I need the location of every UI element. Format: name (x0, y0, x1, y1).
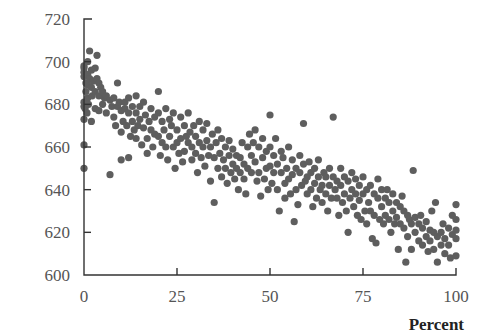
data-point (438, 229, 445, 236)
data-point (240, 175, 247, 182)
data-point (129, 103, 136, 110)
data-point (133, 109, 140, 116)
data-point (125, 154, 132, 161)
data-point (419, 225, 426, 232)
data-point (337, 182, 344, 189)
data-point (270, 152, 277, 159)
x-tick-label: 25 (169, 287, 186, 306)
x-axis-title: Percent (409, 315, 465, 334)
data-point (216, 150, 223, 157)
data-point (372, 239, 379, 246)
data-point (235, 186, 242, 193)
data-point (352, 190, 359, 197)
data-point (125, 109, 132, 116)
data-point (428, 207, 435, 214)
data-point (426, 237, 433, 244)
data-point (350, 203, 357, 210)
data-point (285, 143, 292, 150)
data-point (255, 169, 262, 176)
data-point (337, 165, 344, 172)
data-point (166, 133, 173, 140)
data-point (155, 88, 162, 95)
x-tick-label: 100 (443, 287, 469, 306)
data-point (188, 156, 195, 163)
data-point (106, 171, 113, 178)
data-point (160, 126, 167, 133)
data-point (365, 199, 372, 206)
data-point (86, 47, 93, 54)
data-point (142, 111, 149, 118)
data-point (252, 158, 259, 165)
data-point (231, 175, 238, 182)
data-point (138, 141, 145, 148)
data-point (306, 158, 313, 165)
data-point (237, 154, 244, 161)
data-point (185, 109, 192, 116)
data-point (335, 212, 342, 219)
data-point (319, 199, 326, 206)
x-tick-label: 0 (80, 287, 89, 306)
data-point (430, 246, 437, 253)
data-point (289, 156, 296, 163)
data-point (307, 186, 314, 193)
data-point (326, 165, 333, 172)
data-point (266, 111, 273, 118)
data-point (343, 207, 350, 214)
y-tick-label: 660 (45, 138, 71, 157)
data-point (144, 135, 151, 142)
data-point (272, 135, 279, 142)
data-point (363, 220, 370, 227)
data-point (242, 190, 249, 197)
data-point (389, 207, 396, 214)
x-ticks: 0255075100 (80, 268, 469, 306)
data-point (399, 193, 406, 200)
data-point (408, 220, 415, 227)
data-point (438, 242, 445, 249)
data-point (218, 135, 225, 142)
data-point (410, 167, 417, 174)
data-point (172, 165, 179, 172)
data-point (257, 193, 264, 200)
data-point (181, 148, 188, 155)
data-point (194, 169, 201, 176)
data-point (192, 133, 199, 140)
data-point (352, 175, 359, 182)
data-point (259, 135, 266, 142)
data-point (266, 143, 273, 150)
data-point (367, 182, 374, 189)
data-point (419, 242, 426, 249)
data-point (356, 197, 363, 204)
data-point (339, 199, 346, 206)
data-point (211, 199, 218, 206)
data-point (348, 169, 355, 176)
y-tick-label: 680 (45, 95, 71, 114)
data-point (300, 120, 307, 127)
data-point (164, 156, 171, 163)
data-point (248, 152, 255, 159)
data-point (452, 201, 459, 208)
data-point (207, 178, 214, 185)
data-point (330, 114, 337, 121)
y-tick-label: 700 (45, 53, 71, 72)
data-point (356, 182, 363, 189)
data-point (196, 118, 203, 125)
data-point (198, 154, 205, 161)
data-point (144, 150, 151, 157)
data-point (452, 216, 459, 223)
data-point (324, 207, 331, 214)
data-point (170, 109, 177, 116)
data-point (408, 246, 415, 253)
data-point (125, 94, 132, 101)
data-point (222, 143, 229, 150)
x-tick-label: 50 (262, 287, 279, 306)
data-point (309, 203, 316, 210)
data-point (248, 169, 255, 176)
data-point (112, 122, 119, 129)
data-point (162, 105, 169, 112)
data-point (452, 227, 459, 234)
data-point (319, 182, 326, 189)
data-point (147, 105, 154, 112)
data-point (345, 178, 352, 185)
data-point (199, 126, 206, 133)
data-point (203, 120, 210, 127)
